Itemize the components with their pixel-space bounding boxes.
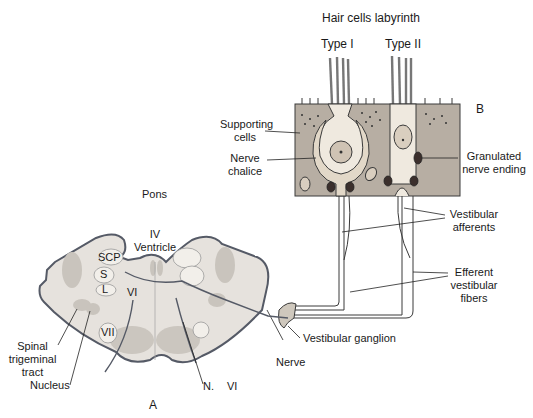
type-i-label: Type I [321, 38, 354, 51]
granulated-ending [414, 152, 422, 164]
scp-label: SCP [98, 251, 121, 264]
fibers [294, 196, 413, 318]
l-label: L [102, 283, 108, 296]
panel-a-letter: A [149, 399, 157, 412]
vi-nucleus-label: VI [127, 286, 137, 299]
ending-2 [346, 182, 354, 192]
nerve-label: Nerve [276, 356, 305, 369]
n-vi-label-n: N. [203, 380, 214, 393]
pons-title: Pons [142, 188, 167, 201]
ending-4 [410, 176, 418, 186]
stereocilia-type-i [330, 57, 349, 104]
granulated-nerve-ending-label: Granulated nerve ending [459, 150, 529, 176]
efferent-vestibular-fibers-label: Efferent vestibular fibers [448, 266, 500, 305]
epithelium-block [295, 56, 460, 196]
n-vi-label-vi: VI [227, 380, 237, 393]
pons-section [40, 234, 289, 372]
vii-label: VII [101, 326, 114, 339]
supporting-cells-label: Supporting cells [220, 118, 270, 144]
panel-b-letter: B [476, 103, 484, 116]
type-ii-label: Type II [385, 38, 421, 51]
ending-3 [384, 176, 392, 186]
vestibular-afferents-label: Vestibular afferents [446, 208, 502, 234]
nerve-chalice-label: Nerve chalice [225, 152, 265, 178]
panel-b-title: Hair cells labyrinth [322, 12, 420, 25]
iv-ventricle-label: IV Ventricle [130, 228, 180, 254]
s-label: S [100, 268, 107, 281]
spinal-trigeminal-tract-label: Spinal trigeminal tract [5, 340, 60, 379]
ending-1 [327, 182, 335, 192]
vestibular-ganglion-label: Vestibular ganglion [303, 332, 396, 345]
vestibular-ganglion [279, 303, 296, 328]
nucleus-label: Nucleus [30, 379, 70, 392]
stereocilia-type-ii [392, 56, 411, 104]
